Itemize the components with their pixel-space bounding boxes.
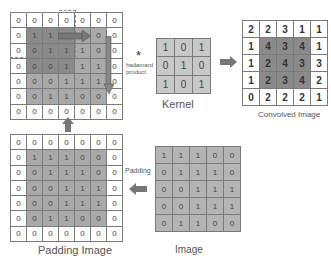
operator-label-line1: hadamard [126, 62, 153, 68]
grid-cell: 1 [173, 215, 190, 232]
grid-cell: 0 [11, 89, 27, 104]
grid-cell: 0 [156, 215, 173, 232]
grid-cell: 0 [43, 59, 59, 74]
grid-cell: 0 [173, 198, 190, 215]
grid-cell: 1 [59, 196, 75, 211]
operator-label-line2: product [126, 69, 146, 75]
grid-cell: 1 [311, 89, 328, 106]
grid-cell: 1 [173, 147, 190, 164]
grid-cell: 4 [260, 38, 277, 55]
grid-cell: 0 [243, 89, 260, 106]
grid-cell: 0 [107, 227, 123, 242]
grid-cell: 0 [75, 227, 91, 242]
grid-cell: 0 [156, 198, 173, 215]
grid-cell: 0 [11, 135, 27, 150]
grid-cell: 1 [207, 181, 224, 198]
grid-cell: 3 [277, 21, 294, 38]
grid-cell: 0 [157, 57, 175, 75]
grid-cell: 1 [224, 181, 241, 198]
grid-cell: 0 [91, 135, 107, 150]
grid-cell: 0 [27, 166, 43, 181]
grid-cell: 1 [224, 198, 241, 215]
grid-cell: 0 [173, 181, 190, 198]
grid-cell: 1 [193, 76, 211, 94]
grid-cell: 1 [294, 21, 311, 38]
grid-cell: 1 [243, 72, 260, 89]
grid-cell: 4 [294, 72, 311, 89]
grid-cell: 0 [107, 181, 123, 196]
grid-cell: 0 [43, 181, 59, 196]
grid-cell: 1 [59, 59, 75, 74]
grid-cell: 0 [43, 105, 59, 120]
grid-cell: 2 [260, 72, 277, 89]
grid-cell: 0 [11, 150, 27, 165]
grid-cell: 1 [59, 166, 75, 181]
grid-cell: 0 [175, 76, 193, 94]
grid-cell: 1 [75, 59, 91, 74]
grid-cell: 1 [190, 181, 207, 198]
grid-cell: 1 [59, 89, 75, 104]
grid-cell: 1 [156, 147, 173, 164]
grid-cell: 0 [75, 13, 91, 28]
grid-cell: 2 [260, 21, 277, 38]
grid-cell: 0 [75, 89, 91, 104]
grid-cell: 0 [59, 135, 75, 150]
grid-cell: 0 [75, 135, 91, 150]
grid-cell: 0 [193, 57, 211, 75]
grid-cell: 0 [43, 74, 59, 89]
grid-cell: 0 [27, 135, 43, 150]
grid-cell: 3 [311, 55, 328, 72]
up-arrow-icon [62, 117, 74, 132]
grid-cell: 1 [190, 147, 207, 164]
convolved-label: Convolved Image [258, 110, 320, 119]
grid-cell: 0 [11, 59, 27, 74]
grid-cell: 1 [207, 198, 224, 215]
grid-cell: 4 [294, 38, 311, 55]
grid-cell: 0 [27, 196, 43, 211]
grid-cell: 2 [260, 89, 277, 106]
image-label: Image [175, 244, 203, 255]
grid-cell: 0 [11, 105, 27, 120]
grid-cell: 0 [27, 211, 43, 226]
grid-cell: 0 [11, 166, 27, 181]
grid-cell: 2 [277, 89, 294, 106]
grid-cell: 0 [107, 13, 123, 28]
grid-cell: 0 [175, 39, 193, 57]
grid-cell: 0 [91, 150, 107, 165]
grid-cell: 0 [11, 196, 27, 211]
grid-cell: 0 [11, 181, 27, 196]
grid-cell: 0 [107, 150, 123, 165]
grid-cell: 2 [311, 72, 328, 89]
grid-cell: 0 [43, 135, 59, 150]
grid-cell: 0 [27, 89, 43, 104]
kernel-grid: 101010101 [156, 38, 211, 94]
grid-cell: 0 [224, 147, 241, 164]
grid-cell: 1 [190, 164, 207, 181]
grid-cell: 1 [243, 55, 260, 72]
grid-cell: 0 [107, 105, 123, 120]
grid-cell: 1 [193, 39, 211, 57]
grid-cell: 0 [27, 105, 43, 120]
grid-cell: 1 [311, 38, 328, 55]
grid-cell: 2 [294, 89, 311, 106]
grid-cell: 1 [75, 181, 91, 196]
grid-cell: 0 [156, 181, 173, 198]
grid-cell: 1 [91, 181, 107, 196]
padding-arrow-label: Padding [125, 167, 151, 174]
padding-image-label: Padding Image [38, 244, 112, 256]
slide-right-arrow-icon [58, 30, 92, 42]
padding-image-grid: 0000000011100000111000001110000111000110… [10, 134, 123, 242]
grid-cell: 0 [27, 227, 43, 242]
grid-cell: 1 [43, 211, 59, 226]
grid-cell: 0 [11, 74, 27, 89]
grid-cell: 3 [277, 38, 294, 55]
kernel-window-outline [10, 12, 59, 58]
grid-cell: 3 [277, 72, 294, 89]
grid-cell: 3 [294, 55, 311, 72]
grid-cell: 0 [224, 215, 241, 232]
grid-cell: 1 [75, 196, 91, 211]
grid-cell: 0 [207, 215, 224, 232]
grid-cell: 0 [91, 105, 107, 120]
grid-cell: 0 [91, 166, 107, 181]
grid-cell: 0 [91, 227, 107, 242]
